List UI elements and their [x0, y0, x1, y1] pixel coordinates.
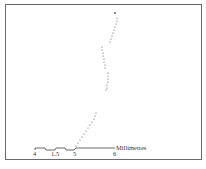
scale-unit-label: Millimetres: [116, 144, 147, 151]
dotted-trace: [75, 12, 117, 146]
scale-tick-label: 1.5: [51, 150, 59, 157]
scale-tick-label: 4: [33, 150, 37, 157]
scale-tick-label: 6: [113, 150, 117, 157]
trajectory-diagram: 4 1.5 5 6 Millimetres: [0, 0, 206, 169]
scale-tick-label: 5: [73, 150, 76, 157]
